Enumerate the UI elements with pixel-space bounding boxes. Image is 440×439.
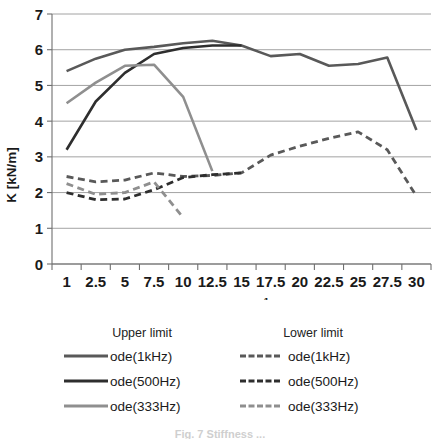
figure-caption: Fig. 7 Stiffness ... — [0, 424, 440, 439]
legend-item-lower-333hz: ode(333Hz) — [240, 394, 420, 418]
svg-text:5: 5 — [121, 273, 129, 290]
svg-text:15: 15 — [233, 273, 250, 290]
axes — [52, 14, 431, 264]
svg-text:7.5: 7.5 — [144, 273, 165, 290]
svg-text:30: 30 — [408, 273, 425, 290]
series-line-lower-ode500Hz — [67, 173, 242, 200]
legend-label: ode(333Hz) — [108, 399, 181, 414]
legend-label: ode(500Hz) — [280, 374, 359, 389]
gridlines — [52, 14, 431, 264]
legend-line-icon — [64, 375, 108, 387]
legend-item-upper-500hz: ode(500Hz) — [64, 369, 234, 393]
svg-text:2.5: 2.5 — [85, 273, 106, 290]
series-line-upper-ode333Hz — [67, 65, 213, 171]
legend-dashed-line-icon — [240, 375, 280, 387]
legend-item-lower-500hz: ode(500Hz) — [240, 369, 420, 393]
svg-text:25: 25 — [350, 273, 367, 290]
svg-text:1: 1 — [35, 220, 43, 237]
x-axis-tick-labels: 12.557.51012.51517.52022.52527.530 — [62, 273, 424, 290]
svg-text:27.5: 27.5 — [373, 273, 402, 290]
legend-column-upper-limit: Upper limit ode(1kHz) ode(500Hz) ode(333… — [64, 326, 234, 419]
legend-item-lower-1khz: ode(1kHz) — [240, 344, 420, 368]
series-line-lower-ode1kHz — [67, 132, 417, 196]
svg-text:12.5: 12.5 — [198, 273, 227, 290]
svg-text:0: 0 — [35, 256, 43, 273]
svg-text:1: 1 — [62, 273, 70, 290]
legend-label: ode(1kHz) — [108, 349, 172, 364]
figure-container: 01234567 12.557.51012.51517.52022.52527.… — [0, 0, 440, 439]
svg-text:5: 5 — [35, 77, 43, 94]
data-series-group — [67, 41, 417, 218]
legend-line-icon — [64, 350, 108, 362]
legend-label: ode(500Hz) — [108, 374, 181, 389]
legend-column-lower-limit: Lower limit ode(1kHz) ode(500Hz) ode(333… — [240, 326, 420, 419]
y-axis-title: K [kN/m] — [4, 147, 19, 203]
legend-dashed-line-icon — [240, 350, 280, 362]
svg-text:20: 20 — [291, 273, 308, 290]
chart-legend: Upper limit ode(1kHz) ode(500Hz) ode(333… — [0, 326, 440, 422]
legend-heading-upper: Upper limit — [64, 326, 234, 340]
line-chart: 01234567 12.557.51012.51517.52022.52527.… — [0, 0, 440, 300]
legend-item-upper-333hz: ode(333Hz) — [64, 394, 234, 418]
svg-text:22.5: 22.5 — [314, 273, 343, 290]
legend-label: ode(333Hz) — [280, 399, 359, 414]
svg-text:4: 4 — [35, 113, 44, 130]
x-axis-title: B [N/ms-1] — [210, 295, 274, 301]
svg-text:6: 6 — [35, 41, 43, 58]
legend-line-icon — [64, 400, 108, 412]
y-axis-tick-labels: 01234567 — [35, 6, 44, 273]
svg-text:3: 3 — [35, 148, 43, 165]
svg-text:2: 2 — [35, 184, 43, 201]
svg-text:10: 10 — [175, 273, 192, 290]
legend-dashed-line-icon — [240, 400, 280, 412]
svg-text:7: 7 — [35, 6, 43, 23]
axis-ticks — [47, 14, 431, 270]
legend-heading-lower: Lower limit — [240, 326, 420, 340]
legend-label: ode(1kHz) — [280, 349, 350, 364]
legend-item-upper-1khz: ode(1kHz) — [64, 344, 234, 368]
svg-text:17.5: 17.5 — [256, 273, 285, 290]
